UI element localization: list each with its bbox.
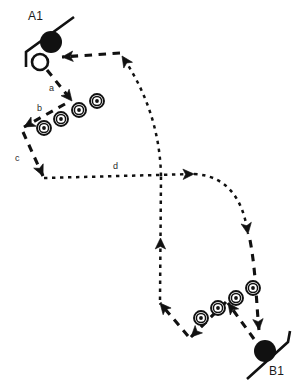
step-label-a: a (49, 84, 54, 93)
path-a-skate-down-arrowhead (61, 89, 76, 104)
step-label-b: b (37, 104, 42, 113)
path-pass-curve-up-left-arrowhead (118, 53, 133, 68)
drill-diagram: A1 B1 a b c d (0, 0, 307, 389)
player-markers-layer (26, 17, 290, 379)
player-label-a1: A1 (28, 10, 43, 22)
cone-marker (194, 311, 208, 325)
step-label-d: d (113, 162, 118, 171)
player-body-b1 (254, 340, 276, 362)
path-pass-curve-up-left (122, 56, 161, 176)
player-body-a1 (40, 31, 62, 53)
path-d-pass-right (44, 174, 194, 178)
path-b1-weave-down-left-arrowhead (187, 326, 202, 341)
cone-markers-layer (37, 94, 260, 325)
path-skate-down-to-b1-arrowhead (253, 319, 264, 331)
movement-paths-layer (21, 51, 264, 341)
cone-marker (54, 112, 68, 126)
step-label-c: c (15, 154, 20, 163)
cone-marker (246, 281, 260, 295)
path-pass-up-vertical-arrowhead (155, 238, 165, 249)
player-label-b1: B1 (269, 365, 284, 377)
puck-marker-a1 (32, 54, 48, 70)
path-b-skate-up-left-arrowhead (21, 117, 36, 131)
player-marker-a1 (26, 17, 74, 70)
path-c-skate-down-arrowhead (34, 164, 48, 178)
cone-marker (90, 94, 104, 108)
cone-marker (72, 103, 86, 117)
cone-marker (229, 291, 243, 305)
path-d-pass-right-arrowhead (183, 169, 194, 180)
path-pass-curve-down-right-arrowhead (241, 222, 253, 235)
path-pass-curve-down-right (194, 174, 248, 234)
cone-marker (37, 121, 51, 135)
cone-marker (211, 301, 225, 315)
diagram-canvas (0, 0, 307, 389)
